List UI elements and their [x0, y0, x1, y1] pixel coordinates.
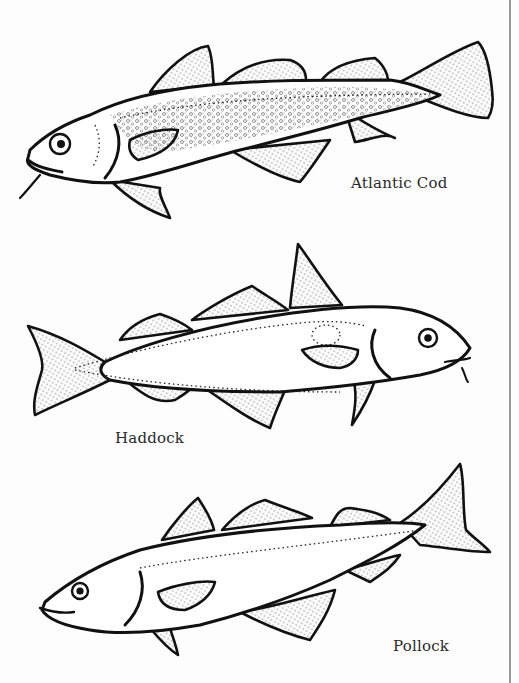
haddock-label: Haddock [115, 429, 184, 447]
pollock-drawing [40, 464, 490, 655]
pollock-label: Pollock [393, 637, 449, 655]
illustration-page: Atlantic Cod Haddock Pollock [0, 0, 519, 683]
atlantic-cod-label: Atlantic Cod [351, 174, 448, 192]
haddock-drawing [28, 244, 470, 428]
fish-drawings [0, 0, 519, 683]
